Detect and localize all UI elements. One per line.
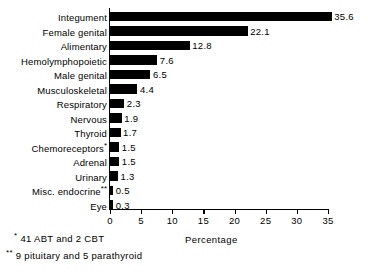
bar (110, 128, 121, 138)
category-label: Adrenal (0, 155, 107, 170)
footnote-text-single: 41 ABT and 2 CBT (20, 233, 104, 244)
bar (110, 142, 119, 152)
x-axis-tick (110, 210, 111, 214)
bar-value-label: 12.8 (192, 39, 212, 53)
bar-row: Respiratory2.3 (0, 97, 369, 112)
bar-row: Female genital22.1 (0, 25, 369, 40)
bar (110, 84, 137, 94)
x-axis-tick-label: 5 (126, 215, 156, 227)
bar-value-label: 35.6 (334, 10, 354, 24)
footnote-text-double: 9 pituitary and 5 parathyroid (16, 250, 142, 261)
bar-row: Adrenal1.5 (0, 155, 369, 170)
category-label: Musculoskeletal (0, 83, 107, 98)
bar (110, 186, 113, 196)
bar-row: Misc. endocrine**0.5 (0, 184, 369, 199)
x-axis-tick-label: 0 (95, 215, 125, 227)
category-label: Nervous (0, 112, 107, 127)
bar-value-label: 1.5 (122, 155, 136, 169)
bar-value-label: 4.4 (140, 83, 154, 97)
x-axis-tick-label: 10 (157, 215, 187, 227)
bar (110, 26, 248, 36)
category-footnote-marker: * (104, 140, 107, 149)
bar-row: Alimentary12.8 (0, 39, 369, 54)
bar-value-label: 1.5 (122, 141, 136, 155)
plot-area: Integument35.6Female genital22.1Alimenta… (0, 8, 369, 208)
x-axis-tick-label: 15 (188, 215, 218, 227)
bar (110, 55, 157, 65)
footnote-marker-single: * (14, 231, 17, 240)
category-label: Male genital (0, 68, 107, 83)
category-label: Female genital (0, 25, 107, 40)
x-axis-tick (203, 210, 204, 214)
footnote-single-asterisk: *41 ABT and 2 CBT (14, 233, 104, 244)
bar-value-label: 6.5 (153, 68, 167, 82)
x-axis-tick-label: 20 (220, 215, 250, 227)
bar-row: Male genital6.5 (0, 68, 369, 83)
bar-chart-figure: Integument35.6Female genital22.1Alimenta… (0, 0, 369, 276)
x-axis-tick (266, 210, 267, 214)
x-axis-tick-label: 35 (313, 215, 343, 227)
x-axis-tick (297, 210, 298, 214)
bar-value-label: 1.3 (121, 170, 135, 184)
category-label: Alimentary (0, 39, 107, 54)
category-label: Integument (0, 10, 107, 25)
bar (110, 41, 190, 51)
footnote-marker-double: ** (6, 248, 13, 257)
y-axis-line (109, 8, 110, 210)
bar (110, 70, 150, 80)
category-label: Hemolymphopoietic (0, 54, 107, 69)
bar (110, 157, 119, 167)
category-label: Chemoreceptors* (0, 141, 107, 156)
category-footnote-marker: ** (101, 184, 107, 193)
category-label: Misc. endocrine** (0, 184, 107, 199)
footnote-double-asterisk: **9 pituitary and 5 parathyroid (6, 250, 142, 261)
x-axis-tick (141, 210, 142, 214)
x-axis-tick (328, 210, 329, 214)
bar-row: Nervous1.9 (0, 112, 369, 127)
x-axis-title: Percentage (185, 234, 238, 245)
bar-value-label: 0.5 (116, 184, 130, 198)
x-axis-tick-label: 25 (251, 215, 281, 227)
category-label: Thyroid (0, 126, 107, 141)
bar-value-label: 1.7 (123, 126, 137, 140)
bar-row: Thyroid1.7 (0, 126, 369, 141)
category-label: Eye (0, 199, 107, 214)
category-label: Respiratory (0, 97, 107, 112)
bar-row: Urinary1.3 (0, 170, 369, 185)
bar-row: Chemoreceptors*1.5 (0, 141, 369, 156)
bar-value-label: 2.3 (127, 97, 141, 111)
bar-row: Hemolymphopoietic7.6 (0, 54, 369, 69)
bar (110, 171, 118, 181)
category-label: Urinary (0, 170, 107, 185)
bar-value-label: 7.6 (160, 54, 174, 68)
bar-value-label: 1.9 (124, 112, 138, 126)
bar (110, 99, 124, 109)
bar-row: Integument35.6 (0, 10, 369, 25)
x-axis-tick (235, 210, 236, 214)
bar-row: Musculoskeletal4.4 (0, 83, 369, 98)
x-axis-tick-label: 30 (282, 215, 312, 227)
bar-value-label: 22.1 (250, 25, 270, 39)
bar (110, 113, 122, 123)
bar (110, 12, 332, 22)
x-axis-tick (172, 210, 173, 214)
bar-row: Eye0.3 (0, 199, 369, 214)
